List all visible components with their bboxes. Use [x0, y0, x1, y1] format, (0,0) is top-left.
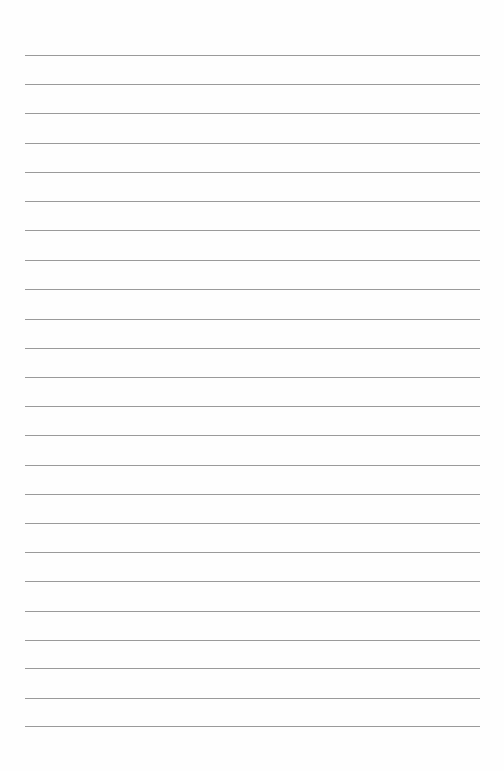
ruled-line: [25, 435, 480, 436]
ruled-line: [25, 319, 480, 320]
ruled-line: [25, 494, 480, 495]
lined-paper-page: [0, 0, 504, 771]
ruled-line: [25, 581, 480, 582]
ruled-line: [25, 143, 480, 144]
ruled-line: [25, 406, 480, 407]
ruled-line: [25, 55, 480, 56]
ruled-line: [25, 726, 480, 727]
ruled-line: [25, 668, 480, 669]
ruled-line: [25, 289, 480, 290]
ruled-line: [25, 230, 480, 231]
ruled-line: [25, 698, 480, 699]
ruled-line: [25, 260, 480, 261]
ruled-line: [25, 640, 480, 641]
ruled-line: [25, 84, 480, 85]
ruled-line: [25, 377, 480, 378]
ruled-line: [25, 113, 480, 114]
ruled-line: [25, 172, 480, 173]
ruled-line: [25, 523, 480, 524]
ruled-line: [25, 465, 480, 466]
ruled-line: [25, 552, 480, 553]
ruled-line: [25, 348, 480, 349]
ruled-line: [25, 611, 480, 612]
ruled-line: [25, 201, 480, 202]
